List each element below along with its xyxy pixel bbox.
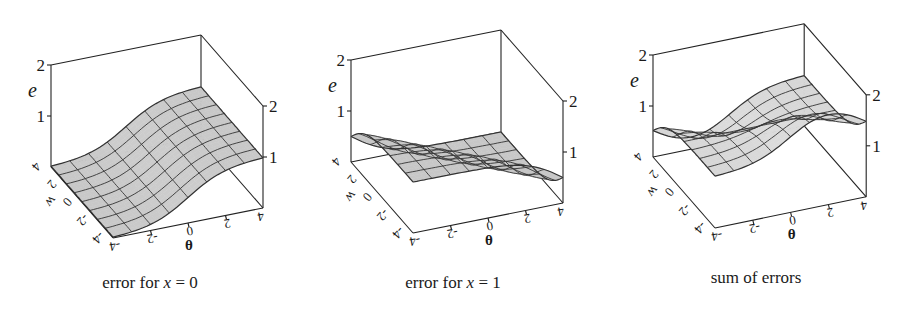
theta-tick-label: 2 [523, 211, 532, 227]
w-tick-label: 0 [360, 190, 376, 205]
theta-axis-label: θ [788, 226, 796, 242]
z-tick-label-right: 1 [872, 137, 881, 156]
z-axis-label: e [28, 79, 37, 101]
z-tick-label-left: 2 [639, 46, 648, 65]
w-tick-label: -4 [89, 229, 108, 247]
theta-tick-label: 4 [256, 209, 265, 225]
z-tick-label-left: 2 [37, 56, 46, 75]
box-top-back-edge [351, 30, 501, 60]
w-tick-label: -2 [374, 206, 392, 224]
w-tick-label: 4 [28, 159, 44, 174]
theta-tick-label: 2 [826, 205, 835, 221]
box-top-back-edge [51, 35, 201, 65]
surface-plot-3: 1122e-4-2024θ-4-2024w [630, 24, 881, 245]
theta-tick-label: 4 [859, 198, 868, 214]
z-tick-label-right: 1 [269, 148, 278, 167]
theta-tick-label: 4 [556, 204, 565, 220]
z-tick-label-left: 1 [639, 97, 648, 116]
z-axis-label: e [630, 69, 639, 91]
w-tick-label: -2 [74, 211, 92, 229]
w-axis-label: w [41, 193, 60, 211]
w-tick-label: -4 [389, 224, 408, 242]
caption-text: error for [405, 273, 466, 292]
surface-grid-lines [351, 132, 563, 182]
caption-text: error for [102, 273, 163, 292]
theta-tick-label: -2 [146, 230, 159, 247]
theta-axis-label: θ [485, 232, 493, 248]
theta-tick-label: -4 [710, 228, 724, 245]
box-top-right-edge [804, 24, 866, 95]
w-tick-label: -2 [676, 201, 694, 219]
z-tick-label-left: 1 [337, 102, 346, 121]
z-tick-label-left: 2 [337, 51, 346, 70]
caption-panel-2: error for x = 1 [303, 273, 603, 293]
caption-panel-3: sum of errors [606, 268, 900, 288]
z-tick-label-right: 2 [569, 92, 578, 111]
theta-tick-label: -2 [748, 220, 761, 237]
theta-tick-label: -4 [408, 233, 422, 250]
box-top-back-edge [653, 24, 804, 55]
box-top-right-edge [201, 35, 263, 106]
theta-tick-label: 2 [223, 216, 232, 232]
w-tick-label: 4 [630, 149, 646, 164]
w-axis-label: w [341, 188, 360, 206]
theta-axis-label: θ [185, 237, 193, 253]
w-tick-label: 0 [662, 185, 678, 200]
z-tick-label-right: 2 [872, 86, 881, 105]
caption-panel-1: error for x = 0 [0, 273, 300, 293]
w-tick-label: 2 [646, 167, 662, 182]
z-tick-label-left: 1 [37, 107, 46, 126]
z-tick-label-right: 1 [569, 143, 578, 162]
figure-canvas: 1122e-4-2024θ-4-2024w1122e-4-2024θ-4-202… [0, 0, 900, 310]
caption-text: sum of errors [711, 268, 802, 287]
surface-plot-2: 1122e-4-2024θ-4-2024w [328, 30, 578, 250]
z-axis-label: e [328, 74, 337, 96]
surface-plot-1: 1122e-4-2024θ-4-2024w [28, 35, 278, 255]
w-tick-label: 4 [328, 154, 344, 169]
theta-tick-label: -2 [446, 225, 459, 242]
z-tick-label-right: 2 [269, 97, 278, 116]
caption-value: = 0 [171, 273, 198, 292]
caption-value: = 1 [474, 273, 501, 292]
box-bottom-right-edge [804, 126, 866, 197]
theta-tick-label: -4 [108, 238, 122, 255]
w-tick-label: 2 [344, 172, 360, 187]
box-top-right-edge [501, 30, 563, 101]
w-tick-label: 0 [60, 195, 76, 210]
w-axis-label: w [643, 183, 662, 201]
surface-grid-lines [653, 76, 866, 176]
w-tick-label: 2 [44, 177, 60, 192]
w-tick-label: -4 [691, 219, 710, 237]
